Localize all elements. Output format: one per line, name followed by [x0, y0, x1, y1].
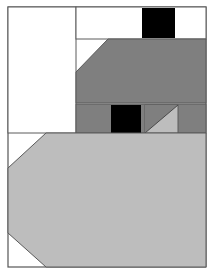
top-right-white-strip — [76, 7, 206, 39]
top-left-white-panel — [8, 7, 76, 133]
bottom-light-gray-mass — [8, 133, 206, 267]
composition-canvas — [0, 0, 215, 274]
composition-svg — [0, 0, 215, 274]
top-black-square — [142, 8, 175, 38]
middle-black-square — [111, 105, 141, 133]
